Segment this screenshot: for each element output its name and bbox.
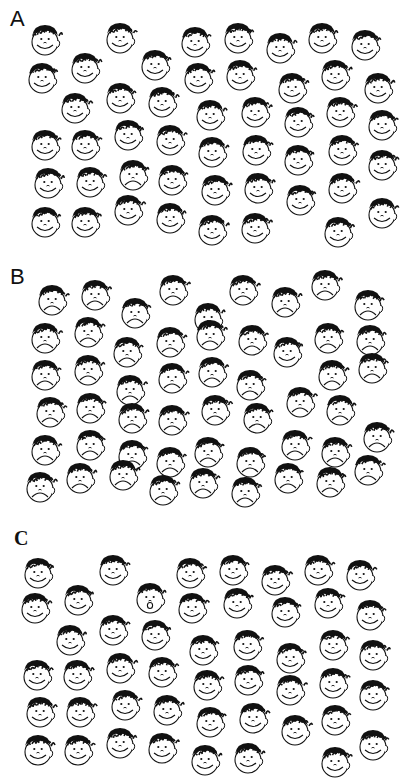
face-happy-icon xyxy=(228,626,266,664)
face-happy-icon xyxy=(18,656,56,694)
face-happy-icon xyxy=(61,693,99,731)
face-sad-icon xyxy=(349,451,387,489)
face-sad-icon xyxy=(26,319,64,357)
face-happy-icon xyxy=(316,743,354,778)
panel-label-c: C xyxy=(14,528,28,548)
face-happy-icon xyxy=(136,616,174,654)
target-face-surprised-icon xyxy=(131,579,169,617)
face-happy-icon xyxy=(26,203,64,241)
face-sad-icon xyxy=(269,459,307,497)
face-happy-icon xyxy=(354,676,392,714)
target-face-sad-icon xyxy=(114,156,152,194)
face-happy-icon xyxy=(94,611,132,649)
face-happy-icon xyxy=(323,131,361,169)
face-sad-icon xyxy=(26,431,64,469)
face-sad-icon xyxy=(69,351,107,389)
face-sad-icon xyxy=(309,319,347,357)
face-happy-icon xyxy=(101,79,139,117)
face-sad-icon xyxy=(306,266,344,304)
face-happy-icon xyxy=(101,724,139,762)
face-sad-icon xyxy=(26,356,64,394)
face-sad-icon xyxy=(104,456,142,494)
face-happy-icon xyxy=(56,89,94,127)
face-happy-icon xyxy=(66,126,104,164)
face-happy-icon xyxy=(281,181,319,219)
face-sad-icon xyxy=(184,464,222,502)
face-happy-icon xyxy=(19,554,57,592)
face-happy-icon xyxy=(26,21,64,59)
face-happy-icon xyxy=(236,93,274,131)
face-sad-icon xyxy=(349,286,387,324)
face-happy-icon xyxy=(266,593,304,631)
face-happy-icon xyxy=(29,164,67,202)
face-happy-icon xyxy=(276,711,314,749)
face-sad-icon xyxy=(33,281,71,319)
face-happy-icon xyxy=(314,664,352,702)
face-sad-icon xyxy=(224,271,262,309)
face-happy-icon xyxy=(237,131,275,169)
face-happy-icon xyxy=(109,191,147,229)
face-sad-icon xyxy=(76,276,114,314)
face-happy-icon xyxy=(106,686,144,724)
face-happy-icon xyxy=(16,589,54,627)
face-sad-icon xyxy=(238,399,276,437)
face-happy-icon xyxy=(176,23,214,61)
face-happy-icon xyxy=(143,83,181,121)
face-happy-icon xyxy=(51,621,89,659)
face-sad-icon xyxy=(71,389,109,427)
face-happy-icon xyxy=(221,56,259,94)
face-happy-icon xyxy=(314,626,352,664)
face-happy-icon xyxy=(319,213,357,251)
face-happy-icon xyxy=(193,211,231,249)
face-happy-icon xyxy=(191,703,229,741)
face-happy-icon xyxy=(94,551,132,589)
face-happy-icon xyxy=(196,171,234,209)
face-happy-icon xyxy=(354,726,392,764)
face-happy-icon xyxy=(101,19,139,57)
face-sad-icon xyxy=(116,294,154,332)
face-happy-icon xyxy=(229,739,267,777)
face-happy-icon xyxy=(316,56,354,94)
face-happy-icon xyxy=(58,656,96,694)
face-happy-icon xyxy=(321,93,359,131)
target-face-happy-icon xyxy=(268,333,306,371)
panel-label-a: A xyxy=(10,8,25,30)
face-happy-icon xyxy=(66,49,104,87)
face-happy-icon xyxy=(279,141,317,179)
face-happy-icon xyxy=(239,169,277,207)
face-happy-icon xyxy=(151,199,189,237)
face-sad-icon xyxy=(61,459,99,497)
face-happy-icon xyxy=(101,649,139,687)
face-happy-icon xyxy=(316,701,354,739)
face-happy-icon xyxy=(279,103,317,141)
face-happy-icon xyxy=(59,581,97,619)
face-happy-icon xyxy=(151,121,189,159)
face-sad-icon xyxy=(151,323,189,361)
face-happy-icon xyxy=(323,169,361,207)
face-sad-icon xyxy=(353,349,391,387)
face-happy-icon xyxy=(71,163,109,201)
face-happy-icon xyxy=(193,133,231,171)
face-happy-icon xyxy=(153,161,191,199)
face-happy-icon xyxy=(273,69,311,107)
face-happy-icon xyxy=(171,554,209,592)
face-happy-icon xyxy=(188,666,226,704)
face-happy-icon xyxy=(363,194,401,232)
face-happy-icon xyxy=(234,699,272,737)
face-sad-icon xyxy=(21,468,59,506)
face-sad-icon xyxy=(281,383,319,421)
face-sad-icon xyxy=(266,283,304,321)
face-happy-icon xyxy=(236,209,274,247)
face-sad-icon xyxy=(144,471,182,509)
face-happy-icon xyxy=(136,46,174,84)
panel-label-b: B xyxy=(10,266,25,288)
face-sad-icon xyxy=(196,391,234,429)
face-happy-icon xyxy=(191,96,229,134)
face-happy-icon xyxy=(359,69,397,107)
face-happy-icon xyxy=(184,631,222,669)
face-happy-icon xyxy=(303,19,341,57)
visual-search-figure: A xyxy=(0,0,404,778)
face-happy-icon xyxy=(351,596,389,634)
face-happy-icon xyxy=(19,731,57,769)
face-happy-icon xyxy=(26,126,64,164)
